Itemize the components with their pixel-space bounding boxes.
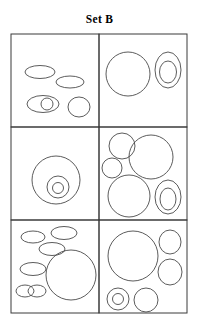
circle-concentric-middle (47, 176, 69, 198)
grid-cell-r3-c1 (11, 220, 99, 313)
ellipse-round-lower-right (68, 97, 90, 117)
circle-inside-lower-left-ellipse (41, 98, 53, 110)
circle-donut-outer (107, 288, 129, 310)
cell-bottom-right (107, 230, 182, 312)
circle-large-bottom-right (46, 250, 96, 300)
grid-cell-r1-c1 (11, 34, 99, 127)
grid-borders (11, 34, 187, 313)
cell-middle-left (32, 156, 80, 204)
ellipse-bottom-right-inner (160, 188, 176, 210)
circle-small-left (102, 158, 122, 178)
cell-bottom-left (16, 227, 96, 301)
ellipse-bottom-right-outer (155, 180, 181, 214)
ellipse-flat-mid-left (20, 263, 46, 276)
ellipse-flat-upper-middle (39, 243, 65, 256)
ellipse-right-lower (158, 259, 182, 285)
ellipse-flat-upper-left (25, 66, 55, 79)
grid-cell-r2-c1 (11, 127, 99, 220)
cell-middle-right (102, 133, 181, 217)
circle-donut-inner (113, 294, 124, 305)
ellipse-flat-upper-right (56, 76, 84, 88)
circle-concentric-outer (32, 156, 80, 204)
shape-grid (0, 0, 199, 324)
circle-large-top-right (129, 135, 173, 179)
circle-large-left (106, 52, 150, 96)
ellipse-flat-top-right (51, 227, 77, 240)
circle-medium-top-left (109, 133, 135, 159)
ellipse-tall-right-inner (160, 61, 177, 83)
ellipse-overlap-right (28, 285, 46, 297)
circle-large-bottom-left (108, 175, 150, 217)
circle-bottom-center (134, 288, 158, 312)
set-b-figure: Set B (0, 0, 199, 324)
circle-concentric-inner (53, 183, 64, 194)
ellipse-right-upper (159, 230, 181, 254)
circle-large-top-left (108, 231, 158, 281)
ellipse-flat-top-left (21, 231, 45, 243)
cell-top-right (106, 52, 181, 96)
cell-top-left (25, 66, 90, 118)
ellipse-lower-left-outer (27, 96, 59, 113)
